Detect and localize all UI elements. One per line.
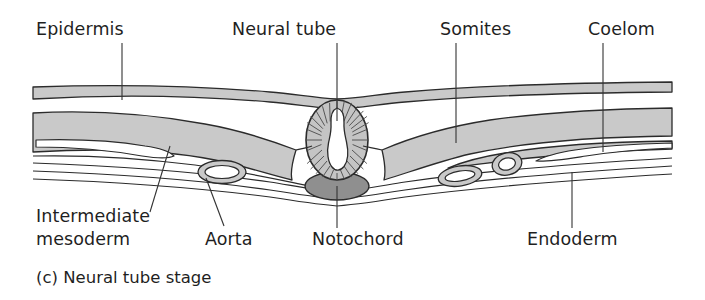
leader-aorta: [206, 178, 224, 226]
label-intermediate-mesoderm-line1: Intermediate: [36, 206, 150, 226]
embryo-cross-section-diagram: Epidermis Neural tube Somites Coelom Int…: [0, 0, 705, 300]
aorta-vessel: [198, 161, 246, 184]
label-epidermis: Epidermis: [36, 19, 124, 39]
figure-root: Epidermis Neural tube Somites Coelom Int…: [0, 0, 705, 300]
label-endoderm: Endoderm: [527, 229, 618, 249]
label-aorta: Aorta: [205, 229, 253, 249]
figure-caption: (c) Neural tube stage: [36, 268, 211, 287]
vessel-right-large: [437, 163, 484, 190]
label-intermediate-mesoderm-line2: mesoderm: [36, 229, 130, 249]
label-notochord: Notochord: [312, 229, 404, 249]
label-neural-tube: Neural tube: [232, 19, 336, 39]
label-coelom: Coelom: [588, 19, 655, 39]
label-somites: Somites: [440, 19, 511, 39]
